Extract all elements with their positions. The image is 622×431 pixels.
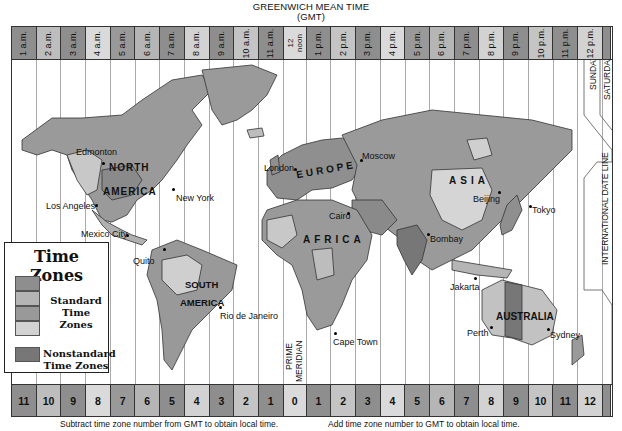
zone-offset-cell: 11 bbox=[553, 385, 578, 416]
city-label-london: London bbox=[264, 163, 294, 173]
zone-offset-label: 0 bbox=[292, 395, 298, 407]
zone-offset-label: 10 bbox=[535, 395, 547, 407]
gmt-hour-cell: 3 p.m. bbox=[356, 27, 381, 59]
zone-offset-label: 2 bbox=[340, 395, 346, 407]
gmt-hour-label: 2 p.m. bbox=[339, 30, 348, 55]
zone-offset-cell: 9 bbox=[504, 385, 529, 416]
zone-offset-cell: 3 bbox=[210, 385, 235, 416]
zone-offset-label: 8 bbox=[488, 395, 494, 407]
city-label-jakarta: Jakarta bbox=[450, 282, 480, 292]
saturday-label: SATURDAY bbox=[602, 60, 612, 100]
legend-nonstandard-line-2: Time Zones bbox=[43, 360, 109, 372]
city-label-los-angeles: Los Angeles bbox=[46, 201, 95, 211]
gmt-hour-cell: 11 a.m. bbox=[259, 27, 284, 59]
zone-offset-label: 1 bbox=[315, 395, 321, 407]
city-label-perth: Perth bbox=[467, 328, 489, 338]
gmt-hour-cell: 6 a.m. bbox=[135, 27, 160, 59]
zone-offset-label: 1 bbox=[268, 395, 274, 407]
continent-label-north-america-2: AMERICA bbox=[103, 186, 157, 197]
gmt-hour-label: 8 p.m. bbox=[487, 30, 496, 55]
gmt-hour-label: 12 noon bbox=[286, 32, 304, 54]
gmt-hour-cell: 9 a.m. bbox=[210, 27, 235, 59]
title-line-2: (GMT) bbox=[0, 12, 622, 22]
city-label-bombay: Bombay bbox=[430, 234, 463, 244]
city-label-cape-town: Cape Town bbox=[333, 337, 378, 347]
zone-offset-label: 6 bbox=[439, 395, 445, 407]
legend-swatch-nonstandard bbox=[15, 347, 40, 362]
city-label-edmonton: Edmonton bbox=[76, 147, 117, 157]
legend-swatch-standard-2 bbox=[15, 291, 40, 306]
gmt-hour-cell: 11 p.m. bbox=[553, 27, 578, 59]
gmt-hour-label: 7 p.m. bbox=[462, 30, 471, 55]
gmt-hour-label: 7 a.m. bbox=[167, 30, 176, 55]
legend-box: Time Zones Standard Time Zones Nonstanda… bbox=[4, 242, 109, 373]
sunday-label: SUNDAY bbox=[588, 60, 598, 90]
zone-offset-cell: 0 bbox=[284, 385, 307, 416]
zone-offset-label: 10 bbox=[43, 395, 55, 407]
zone-offset-label: 7 bbox=[120, 395, 126, 407]
city-label-beijing: Beijing bbox=[473, 194, 500, 204]
city-dot-los-angeles bbox=[95, 204, 98, 207]
zone-offset-cell: 7 bbox=[455, 385, 480, 416]
gmt-hour-label: 4 p.m. bbox=[388, 30, 397, 55]
zone-offset-cell: 12 bbox=[578, 385, 603, 416]
city-dot-quito bbox=[163, 248, 166, 251]
greenland-shape bbox=[202, 65, 277, 125]
gmt-hour-cell: 5 p.m. bbox=[405, 27, 430, 59]
gmt-hour-cell: 8 a.m. bbox=[185, 27, 210, 59]
zone-offset-cell: 9 bbox=[61, 385, 86, 416]
continent-label-asia: ASIA bbox=[449, 175, 489, 186]
prime-meridian-label-2: MERIDIAN bbox=[294, 340, 304, 382]
zone-offset-label: 5 bbox=[169, 395, 175, 407]
legend-swatch-standard-1 bbox=[15, 276, 40, 291]
zone-offset-label: 7 bbox=[464, 395, 470, 407]
legend-standard-label: Standard Time Zones bbox=[45, 295, 107, 331]
city-label-moscow: Moscow bbox=[362, 151, 395, 161]
gmt-hour-label: 3 p.m. bbox=[363, 30, 372, 55]
gmt-hour-label: 4 a.m. bbox=[93, 30, 102, 55]
zone-offset-cell: 2 bbox=[331, 385, 356, 416]
legend-standard-line-1: Standard bbox=[45, 295, 107, 307]
gmt-hour-cell: 1 a.m. bbox=[12, 27, 37, 59]
zone-offset-cell: 10 bbox=[37, 385, 62, 416]
gmt-hour-cell: 4 p.m. bbox=[381, 27, 406, 59]
gmt-hour-label: 9 p.m. bbox=[511, 30, 520, 55]
gmt-hour-cell: 12 p.m. bbox=[578, 27, 603, 59]
legend-nonstandard-line-1: Nonstandard bbox=[43, 348, 109, 360]
zone-offset-cell: 6 bbox=[135, 385, 160, 416]
city-label-sydney: Sydney bbox=[550, 330, 580, 340]
gmt-hour-cell: 10 a.m. bbox=[234, 27, 259, 59]
gmt-hour-cell: 3 a.m. bbox=[61, 27, 86, 59]
city-dot-perth bbox=[490, 326, 493, 329]
zone-offset-cell: 4 bbox=[185, 385, 210, 416]
caption-west: Subtract time zone number from GMT to ob… bbox=[60, 419, 278, 429]
map-title: GREENWICH MEAN TIME (GMT) bbox=[0, 2, 622, 22]
zone-offset-cell bbox=[603, 385, 611, 416]
zone-offset-label: 8 bbox=[95, 395, 101, 407]
gmt-hour-label: 6 p.m. bbox=[437, 30, 446, 55]
gmt-hour-label: 1 p.m. bbox=[314, 30, 323, 55]
zone-offset-cell: 4 bbox=[381, 385, 406, 416]
city-label-quito: Quito bbox=[133, 256, 155, 266]
gmt-hour-label: 5 a.m. bbox=[118, 30, 127, 55]
zone-offset-label: 2 bbox=[243, 395, 249, 407]
prime-meridian-label-1: PRIME bbox=[284, 343, 294, 370]
zone-offset-label: 6 bbox=[144, 395, 150, 407]
gmt-hour-band: 1 a.m.2 a.m.3 a.m.4 a.m.5 a.m.6 a.m.7 a.… bbox=[11, 26, 613, 60]
gmt-hour-label: 10 a.m. bbox=[242, 28, 251, 58]
legend-swatch-standard-3 bbox=[15, 306, 40, 321]
zone-offset-cell: 2 bbox=[234, 385, 259, 416]
gmt-hour-label: 11 a.m. bbox=[266, 28, 275, 57]
gmt-hour-cell: 7 p.m. bbox=[455, 27, 480, 59]
city-dot-new-york bbox=[172, 188, 175, 191]
zone-offset-label: 4 bbox=[390, 395, 396, 407]
zone-offset-cell: 10 bbox=[529, 385, 554, 416]
continent-label-north-america-1: NORTH bbox=[109, 162, 150, 173]
zone-offset-label: 11 bbox=[18, 395, 29, 407]
gmt-hour-cell bbox=[603, 27, 611, 59]
gmt-hour-label: 1 a.m. bbox=[19, 30, 28, 55]
zone-offset-cell: 1 bbox=[259, 385, 284, 416]
date-line-label: INTERNATIONAL DATE LINE bbox=[600, 152, 610, 265]
zone-offset-label: 4 bbox=[194, 395, 200, 407]
zone-offset-label: 12 bbox=[584, 395, 596, 407]
